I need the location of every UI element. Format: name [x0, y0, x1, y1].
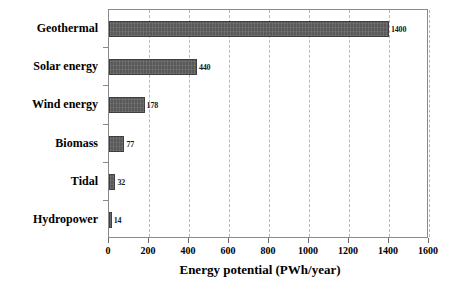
y-axis-category-label: Wind energy — [32, 97, 98, 112]
y-axis-category-label: Hydropower — [33, 211, 98, 226]
x-axis-tick-label: 1000 — [298, 245, 318, 256]
gridline — [429, 10, 430, 237]
x-axis-tick — [268, 238, 269, 243]
x-axis-tick — [108, 238, 109, 243]
x-axis-tick — [308, 238, 309, 243]
x-axis-tick-label: 1200 — [338, 245, 358, 256]
bar-value-label: 1400 — [391, 25, 406, 34]
x-axis-tick-label: 400 — [181, 245, 196, 256]
bar-value-label: 440 — [199, 63, 210, 72]
x-axis-tick — [428, 238, 429, 243]
bar-row: 178 — [109, 86, 427, 124]
y-axis-category-label: Solar energy — [33, 59, 98, 74]
bar-chart: 1400440178773214 GeothermalSolar energyW… — [0, 0, 462, 293]
x-axis-tick-label: 200 — [141, 245, 156, 256]
x-axis-tick — [388, 238, 389, 243]
x-axis-tick — [228, 238, 229, 243]
bar-value-label: 77 — [126, 139, 134, 148]
bar-value-label: 32 — [117, 177, 125, 186]
bar — [109, 212, 112, 228]
bar-row: 32 — [109, 163, 427, 201]
y-axis-category-label: Biomass — [55, 135, 98, 150]
bar-row: 77 — [109, 125, 427, 163]
bar — [109, 97, 145, 113]
y-axis-category-label: Geothermal — [37, 21, 98, 36]
x-axis-tick — [148, 238, 149, 243]
x-axis-title-text: Energy potential (PWh/year) — [179, 262, 340, 278]
y-axis-tick — [103, 47, 108, 48]
y-axis-tick — [103, 124, 108, 125]
x-axis-tick — [188, 238, 189, 243]
bar — [109, 174, 115, 190]
bar — [109, 59, 197, 75]
bar-value-label: 178 — [147, 101, 158, 110]
x-axis-tick-label: 600 — [221, 245, 236, 256]
x-axis-tick-label: 800 — [261, 245, 276, 256]
x-axis-tick-label: 0 — [106, 245, 111, 256]
y-axis-tick — [103, 162, 108, 163]
bar — [109, 21, 389, 37]
bar — [109, 136, 124, 152]
x-axis-tick — [348, 238, 349, 243]
y-axis-category-label: Tidal — [71, 173, 98, 188]
x-axis-title: Energy potential (PWh/year) — [0, 262, 462, 278]
y-axis-labels: GeothermalSolar energyWind energyBiomass… — [0, 9, 104, 238]
plot-area: 1400440178773214 — [108, 9, 428, 238]
y-axis-tick — [103, 85, 108, 86]
bar-value-label: 14 — [114, 215, 122, 224]
x-axis-tick-label: 1400 — [378, 245, 398, 256]
y-axis-tick — [103, 200, 108, 201]
x-axis-tick-label: 1600 — [418, 245, 438, 256]
bar-row: 440 — [109, 48, 427, 86]
bar-row: 1400 — [109, 10, 427, 48]
bar-row: 14 — [109, 201, 427, 239]
